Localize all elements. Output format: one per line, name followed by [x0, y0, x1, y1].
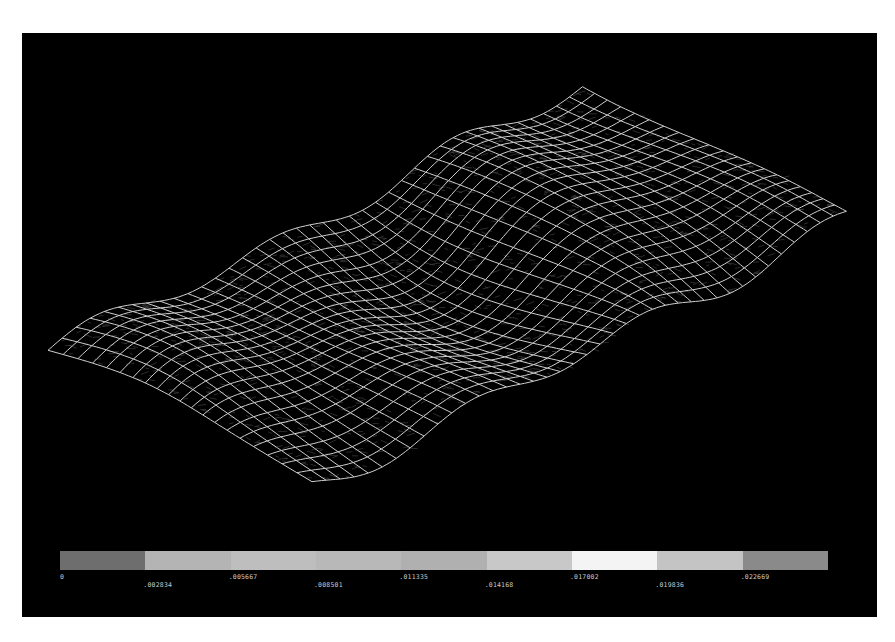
legend-segment [487, 551, 572, 570]
deformed-mesh-wireframe [22, 33, 877, 617]
legend-label: .005667 [229, 573, 258, 581]
legend-label: .019836 [655, 581, 684, 589]
legend-color-bar [60, 551, 828, 570]
legend-segment [60, 551, 145, 570]
legend-segment [145, 551, 230, 570]
graphics-viewport[interactable]: 0 .002834 .005667 .008501 .011335 .01416… [22, 33, 877, 617]
legend-segment [231, 551, 316, 570]
contour-legend: 0 .002834 .005667 .008501 .011335 .01416… [60, 551, 828, 591]
legend-label: .011335 [399, 573, 428, 581]
legend-segment [657, 551, 742, 570]
legend-segment [743, 551, 828, 570]
legend-label: .008501 [314, 581, 343, 589]
legend-segment [401, 551, 486, 570]
legend-label: .017002 [570, 573, 599, 581]
legend-label: 0 [60, 573, 64, 581]
legend-segment [316, 551, 401, 570]
legend-label: .002834 [143, 581, 172, 589]
legend-label: .014168 [485, 581, 514, 589]
legend-segment [572, 551, 657, 570]
legend-label: .022669 [741, 573, 770, 581]
